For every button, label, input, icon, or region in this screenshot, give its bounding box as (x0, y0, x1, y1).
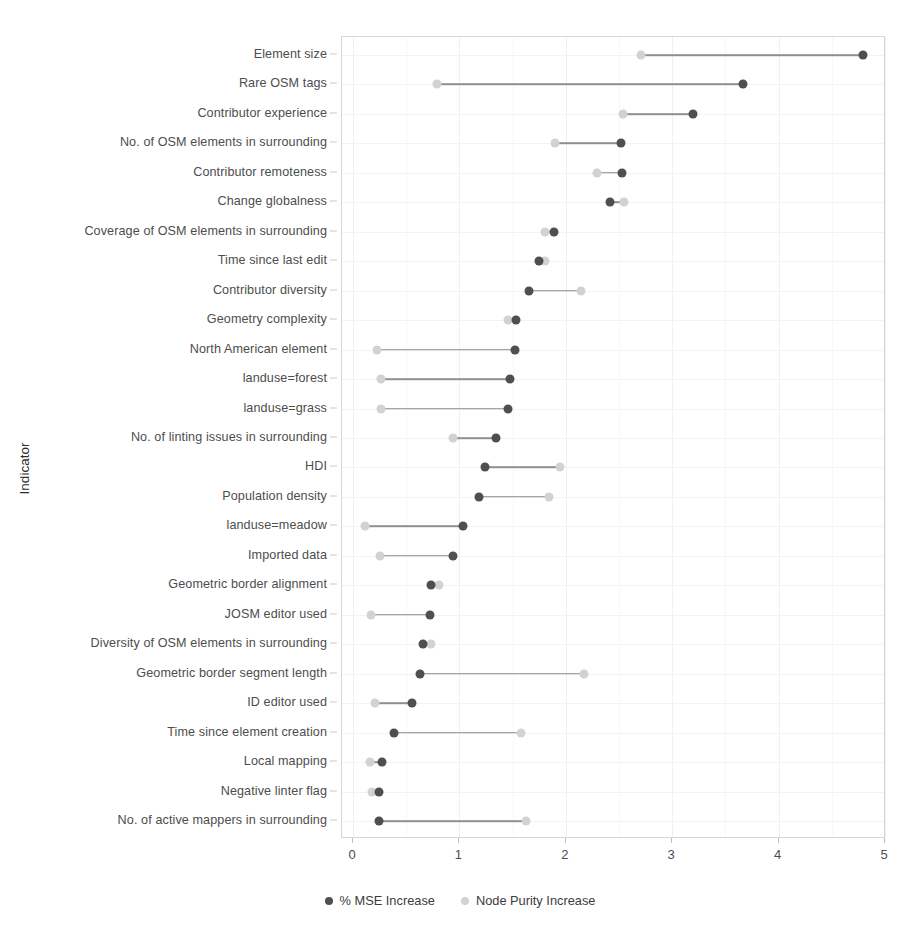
data-point-mse (474, 492, 483, 501)
y-axis-tick-label: Geometric border segment length (136, 666, 327, 680)
x-axis-tick-mark (458, 838, 459, 843)
data-point-node-purity (376, 375, 385, 384)
data-point-mse (449, 551, 458, 560)
data-point-mse (510, 345, 519, 354)
data-point-mse (419, 640, 428, 649)
connector-segment (377, 349, 514, 351)
data-point-node-purity (551, 139, 560, 148)
y-axis-tick-mark (330, 319, 337, 320)
x-axis-tick-mark (778, 838, 779, 843)
y-axis-tick-mark (330, 584, 337, 585)
data-point-node-purity (435, 581, 444, 590)
y-axis-tick-label: Coverage of OSM elements in surrounding (84, 224, 327, 238)
data-point-mse (511, 316, 520, 325)
data-point-mse (739, 80, 748, 89)
y-axis-tick-label: Imported data (248, 548, 327, 562)
y-axis-tick-label: No. of OSM elements in surrounding (120, 135, 327, 149)
y-axis-tick-mark (330, 731, 337, 732)
gridline-horizontal (342, 762, 884, 763)
y-axis-tick-mark (330, 378, 337, 379)
connector-segment (437, 84, 743, 86)
y-axis-tick-mark (330, 761, 337, 762)
y-axis-tick-mark (330, 171, 337, 172)
y-axis-tick-label: HDI (305, 459, 327, 473)
y-axis-tick-mark (330, 289, 337, 290)
data-point-node-purity (579, 669, 588, 678)
y-axis-tick-labels: Element sizeRare OSM tagsContributor exp… (0, 0, 341, 936)
data-point-node-purity (373, 345, 382, 354)
data-point-mse (550, 227, 559, 236)
legend-swatch-mse-icon (325, 897, 333, 905)
data-point-mse (416, 669, 425, 678)
gridline-horizontal (342, 467, 884, 468)
data-point-mse (858, 51, 867, 60)
connector-segment (394, 732, 521, 734)
y-axis-tick-label: Contributor remoteness (193, 165, 327, 179)
data-point-mse (535, 257, 544, 266)
legend: % MSE IncreaseNode Purity Increase (0, 893, 920, 908)
y-axis-tick-mark (330, 643, 337, 644)
plot-panel (341, 36, 885, 838)
data-point-node-purity (366, 758, 375, 767)
y-axis-tick-label: Time since last edit (218, 253, 327, 267)
data-point-node-purity (556, 463, 565, 472)
y-axis-tick-mark (330, 407, 337, 408)
y-axis-tick-mark (330, 142, 337, 143)
gridline-major-vertical (885, 37, 886, 837)
y-axis-tick-label: Diversity of OSM elements in surrounding (91, 636, 327, 650)
data-point-mse (390, 728, 399, 737)
data-point-node-purity (371, 699, 380, 708)
data-point-mse (618, 168, 627, 177)
x-axis: 012345 (341, 838, 885, 878)
y-axis-tick-mark (330, 436, 337, 437)
y-axis-tick-mark (330, 819, 337, 820)
data-point-mse (617, 139, 626, 148)
gridline-horizontal (342, 438, 884, 439)
y-axis-tick-mark (330, 672, 337, 673)
y-axis-tick-mark (330, 54, 337, 55)
data-point-node-purity (360, 522, 369, 531)
x-axis-tick-label: 5 (880, 847, 887, 862)
y-axis-tick-label: Contributor experience (197, 106, 327, 120)
data-point-node-purity (620, 198, 629, 207)
y-axis-tick-mark (330, 495, 337, 496)
y-axis-tick-mark (330, 260, 337, 261)
y-axis-tick-label: No. of linting issues in surrounding (131, 430, 327, 444)
connector-segment (380, 555, 453, 557)
y-axis-tick-mark (330, 201, 337, 202)
data-point-node-purity (592, 168, 601, 177)
data-point-mse (374, 787, 383, 796)
data-point-node-purity (522, 816, 531, 825)
data-point-node-purity (433, 80, 442, 89)
connector-segment (479, 496, 549, 498)
data-point-mse (425, 610, 434, 619)
y-axis-tick-label: landuse=meadow (227, 518, 327, 532)
gridline-horizontal (342, 792, 884, 793)
dotplot-chart: Indicator Element sizeRare OSM tagsContr… (0, 0, 920, 936)
y-axis-tick-mark (330, 83, 337, 84)
gridline-horizontal (342, 585, 884, 586)
data-point-node-purity (637, 51, 646, 60)
data-point-mse (426, 581, 435, 590)
connector-segment (641, 54, 862, 56)
data-point-mse (480, 463, 489, 472)
connector-segment (365, 526, 463, 528)
data-point-mse (407, 699, 416, 708)
y-axis-tick-label: ID editor used (247, 695, 327, 709)
connector-segment (420, 673, 584, 675)
gridline-horizontal (342, 114, 884, 115)
gridline-horizontal (342, 320, 884, 321)
x-axis-tick-label: 4 (774, 847, 781, 862)
y-axis-tick-label: Rare OSM tags (239, 76, 327, 90)
x-axis-tick-label: 0 (348, 847, 355, 862)
data-point-node-purity (517, 728, 526, 737)
y-axis-tick-mark (330, 348, 337, 349)
data-point-mse (606, 198, 615, 207)
y-axis-tick-label: landuse=forest (243, 371, 327, 385)
data-point-node-purity (544, 492, 553, 501)
data-point-mse (689, 109, 698, 118)
data-point-node-purity (367, 610, 376, 619)
x-axis-tick-mark (565, 838, 566, 843)
data-point-node-purity (576, 286, 585, 295)
connector-segment (381, 378, 511, 380)
